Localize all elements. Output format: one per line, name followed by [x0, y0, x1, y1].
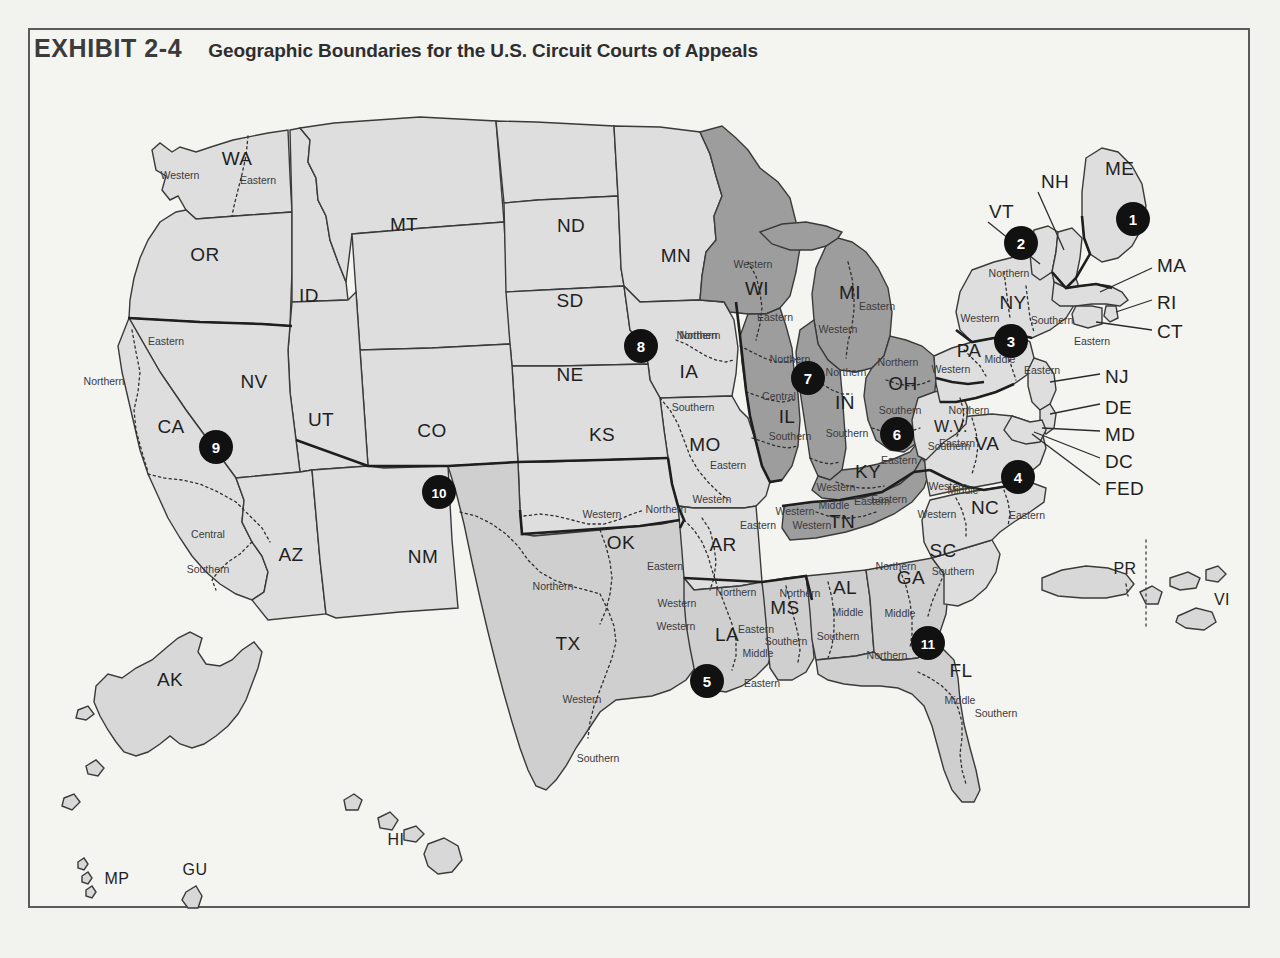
- exhibit-number: EXHIBIT 2-4: [34, 34, 182, 63]
- exhibit-header: EXHIBIT 2-4 Geographic Boundaries for th…: [34, 34, 758, 63]
- page-title: Geographic Boundaries for the U.S. Circu…: [208, 40, 758, 62]
- exhibit-frame: [28, 28, 1250, 908]
